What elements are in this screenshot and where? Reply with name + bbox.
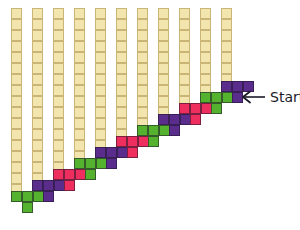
unit-cell [221, 30, 232, 41]
unit-cell [74, 74, 85, 85]
unit-cell [137, 19, 148, 30]
unit-cell [158, 19, 169, 30]
unit-cell [158, 63, 169, 74]
unit-cell [53, 30, 64, 41]
unit-cell [53, 118, 64, 129]
unit-cell [137, 52, 148, 63]
unit-cell [200, 8, 211, 19]
unit-column [137, 8, 148, 129]
unit-cell [74, 19, 85, 30]
unit-column [95, 8, 106, 151]
tetromino-cell [64, 180, 75, 191]
unit-cell [116, 41, 127, 52]
unit-cell [11, 140, 22, 151]
unit-cell [74, 41, 85, 52]
unit-cell [179, 63, 190, 74]
tetromino-cell [53, 169, 64, 180]
unit-cell [11, 173, 22, 184]
unit-cell [95, 19, 106, 30]
unit-cell [32, 118, 43, 129]
tetromino-cell [211, 103, 222, 114]
unit-cell [116, 52, 127, 63]
unit-cell [32, 74, 43, 85]
unit-cell [74, 96, 85, 107]
unit-column [179, 8, 190, 107]
unit-cell [158, 52, 169, 63]
unit-cell [11, 52, 22, 63]
unit-cell [158, 74, 169, 85]
unit-cell [53, 85, 64, 96]
unit-cell [95, 118, 106, 129]
unit-cell [179, 52, 190, 63]
unit-cell [11, 30, 22, 41]
unit-cell [32, 30, 43, 41]
unit-cell [158, 85, 169, 96]
unit-cell [221, 63, 232, 74]
tetromino-cell [221, 81, 232, 92]
unit-cell [53, 107, 64, 118]
unit-cell [137, 96, 148, 107]
unit-cell [137, 41, 148, 52]
unit-cell [158, 96, 169, 107]
tetromino-cell [22, 202, 33, 213]
unit-cell [179, 19, 190, 30]
unit-cell [11, 96, 22, 107]
unit-cell [221, 19, 232, 30]
tetromino-cell [190, 114, 201, 125]
unit-cell [95, 30, 106, 41]
unit-cell [11, 162, 22, 173]
unit-cell [95, 107, 106, 118]
unit-cell [137, 85, 148, 96]
unit-cell [200, 63, 211, 74]
tetromino-cell [158, 114, 169, 125]
unit-cell [116, 63, 127, 74]
unit-cell [32, 52, 43, 63]
unit-cell [53, 41, 64, 52]
unit-cell [221, 52, 232, 63]
unit-cell [95, 74, 106, 85]
unit-column [74, 8, 85, 162]
unit-cell [53, 8, 64, 19]
unit-cell [74, 107, 85, 118]
unit-cell [116, 8, 127, 19]
unit-cell [53, 63, 64, 74]
unit-cell [221, 41, 232, 52]
unit-cell [53, 96, 64, 107]
unit-cell [11, 41, 22, 52]
unit-cell [200, 19, 211, 30]
unit-cell [11, 151, 22, 162]
unit-cell [32, 129, 43, 140]
tetromino-cell [43, 191, 54, 202]
unit-column [11, 8, 22, 195]
unit-cell [74, 52, 85, 63]
unit-column [116, 8, 127, 140]
tetromino-cell [32, 180, 43, 191]
unit-cell [158, 30, 169, 41]
tetromino-cell [169, 125, 180, 136]
unit-cell [74, 118, 85, 129]
unit-cell [179, 30, 190, 41]
unit-cell [200, 41, 211, 52]
unit-cell [221, 8, 232, 19]
unit-cell [200, 74, 211, 85]
unit-cell [179, 74, 190, 85]
unit-cell [116, 19, 127, 30]
left-arrow-icon [240, 90, 266, 104]
unit-column [32, 8, 43, 184]
unit-cell [11, 85, 22, 96]
unit-cell [137, 30, 148, 41]
unit-cell [32, 96, 43, 107]
tetromino-cell [179, 103, 190, 114]
unit-cell [137, 63, 148, 74]
tetromino-cell [127, 147, 138, 158]
unit-cell [179, 85, 190, 96]
unit-cell [53, 129, 64, 140]
unit-cell [74, 129, 85, 140]
unit-cell [116, 85, 127, 96]
tetromino-cell [74, 158, 85, 169]
unit-cell [137, 8, 148, 19]
unit-cell [32, 162, 43, 173]
start-label: Start [270, 90, 300, 104]
unit-cell [95, 63, 106, 74]
unit-column [200, 8, 211, 96]
